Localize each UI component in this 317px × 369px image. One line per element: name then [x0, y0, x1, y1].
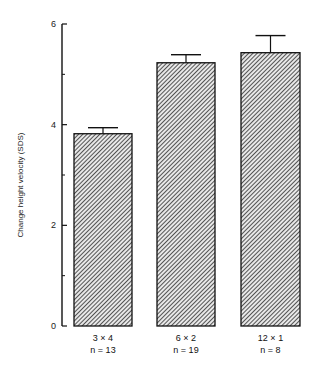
category-label: 12 × 1 [258, 333, 283, 343]
y-axis-label: Change height velocity (SDS) [16, 132, 25, 237]
category-label: 6 × 2 [176, 333, 196, 343]
x-axis-labels: 3 × 4n = 136 × 2n = 1912 × 1n = 8 [90, 333, 283, 355]
y-tick-label: 2 [51, 220, 56, 230]
y-tick-label: 6 [51, 19, 56, 29]
n-label: n = 19 [173, 345, 198, 355]
bar [157, 63, 215, 326]
bar [241, 53, 300, 326]
category-label: 3 × 4 [93, 333, 113, 343]
y-axis: 0246 [51, 19, 67, 331]
bar-chart: 0246 Change height velocity (SDS) 3 × 4n… [0, 0, 317, 369]
n-label: n = 8 [260, 345, 280, 355]
bars [74, 36, 300, 326]
y-tick-label: 4 [51, 120, 56, 130]
n-label: n = 13 [90, 345, 115, 355]
y-axis-title: Change height velocity (SDS) [16, 132, 25, 237]
bar [74, 134, 132, 326]
y-tick-label: 0 [51, 321, 56, 331]
